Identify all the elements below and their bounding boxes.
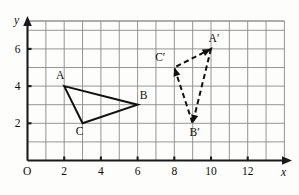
y-tick-label: 6 (15, 43, 21, 55)
vertex-arrowhead (174, 68, 181, 77)
vertex-label: B′ (190, 126, 200, 138)
x-tick-label: 10 (205, 165, 217, 177)
x-tick-label: 8 (171, 165, 177, 177)
coordinate-grid-figure: 24681012246 ABCA′B′C′ x y O (0, 0, 299, 195)
x-axis-label: x (280, 166, 287, 178)
vertex-label: C (76, 125, 84, 137)
axis-ticks: 24681012246 (15, 43, 254, 177)
x-tick-label: 12 (242, 165, 254, 177)
vertex-label: A′ (209, 32, 220, 44)
x-tick-label: 2 (61, 165, 67, 177)
origin-label: O (23, 165, 31, 177)
vertex-label: B (140, 89, 148, 101)
vertex-label: A (56, 69, 65, 81)
x-tick-label: 6 (135, 165, 141, 177)
x-axis-arrowhead (282, 156, 292, 165)
vertex-label: C′ (155, 51, 165, 63)
y-tick-label: 4 (15, 80, 21, 92)
x-tick-label: 4 (98, 165, 104, 177)
y-tick-label: 2 (15, 117, 21, 129)
axes (23, 16, 292, 165)
figure-canvas: 24681012246 ABCA′B′C′ x y O (0, 0, 299, 195)
y-axis-label: y (13, 14, 20, 27)
